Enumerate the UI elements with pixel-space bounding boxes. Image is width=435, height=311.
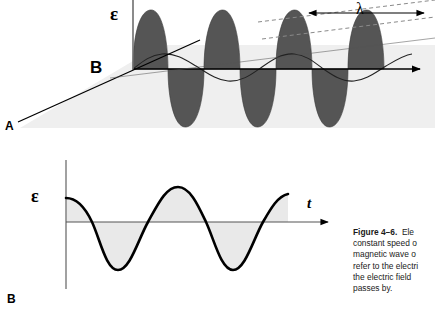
caption-line-2: magnetic wave o: [353, 249, 435, 260]
caption-line-0: Figure 4–6. Ele: [353, 227, 435, 238]
figure-container: ε B λ A ε t B Figure 4–6. Ele con: [0, 0, 435, 311]
caption-line-4: the electric field: [353, 272, 435, 283]
panel-b-wave-fill: [66, 187, 288, 270]
caption-line-3: refer to the electri: [353, 261, 435, 272]
panel-b-time-label: t: [307, 195, 311, 212]
figure-caption: Figure 4–6. Ele constant speed o magneti…: [353, 227, 435, 294]
caption-text-0: Ele: [402, 227, 414, 237]
caption-line-5: passes by.: [353, 283, 435, 294]
panel-b-epsilon-label: ε: [31, 186, 39, 207]
caption-line-1: constant speed o: [353, 238, 435, 249]
figure-number: Figure 4–6.: [353, 227, 397, 237]
panel-label-b: B: [7, 293, 16, 305]
